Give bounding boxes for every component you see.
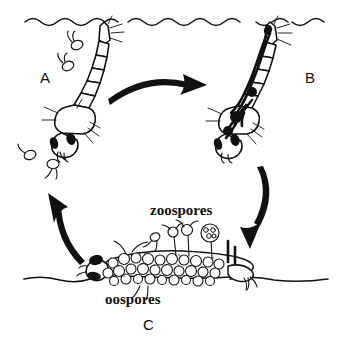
stage-label-a: A (40, 69, 51, 86)
arrow-b-to-c (240, 166, 269, 249)
zoospores-label: zoospores (150, 202, 212, 219)
stage-label-b: B (305, 69, 316, 86)
larva-infected (206, 16, 292, 163)
diagram-canvas (0, 0, 352, 345)
arrow-c-to-a (48, 193, 85, 265)
oospores-label: oospores (105, 291, 161, 308)
larva-healthy (42, 16, 124, 162)
oospore-mass (103, 253, 224, 286)
zoospore (18, 144, 37, 161)
stage-label-c: C (143, 316, 154, 333)
zoospore-released (143, 231, 161, 251)
life-cycle-diagram: A B C zoospores oospores (0, 0, 352, 345)
larva-cadaver (77, 220, 257, 300)
zoospore (58, 53, 75, 73)
water-surface-line (25, 19, 324, 26)
zoospore (68, 31, 85, 51)
arrow-a-to-b (108, 74, 207, 105)
zoospore (45, 160, 59, 180)
